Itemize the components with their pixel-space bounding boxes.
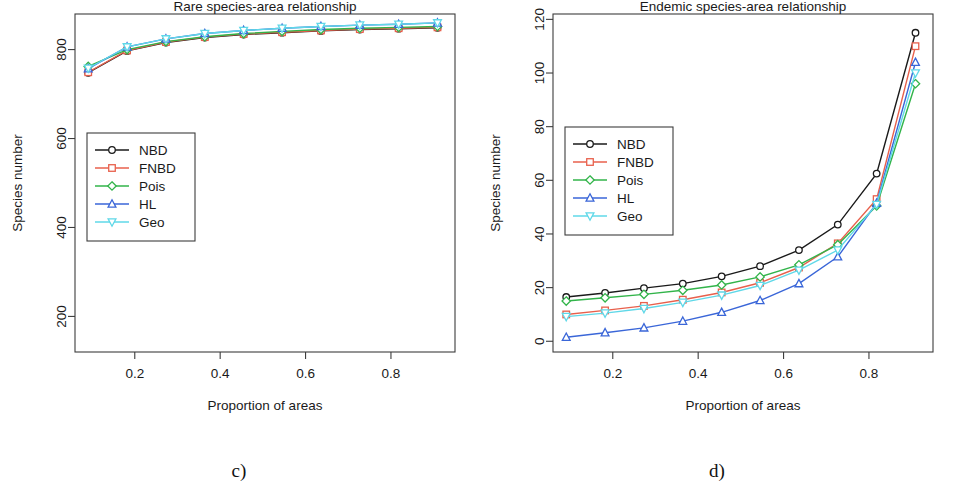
marker-circle xyxy=(109,147,116,154)
figure-container: Rare species-area relationship2004006008… xyxy=(0,0,956,492)
y-tick-label: 0 xyxy=(532,338,547,346)
series-line xyxy=(88,23,437,68)
marker-circle xyxy=(912,30,919,37)
marker-square xyxy=(912,43,919,50)
y-tick-label: 200 xyxy=(54,305,69,328)
y-tick-label: 100 xyxy=(532,62,547,85)
legend-label-fnbd: FNBD xyxy=(617,155,654,170)
y-axis-label: Species number xyxy=(488,134,503,232)
chart-title: Endemic species-area relationship xyxy=(640,0,846,14)
y-tick-label: 600 xyxy=(54,127,69,150)
y-tick-label: 20 xyxy=(532,280,547,295)
x-tick-label: 0.8 xyxy=(382,366,401,381)
x-tick-label: 0.2 xyxy=(125,366,144,381)
x-axis-label: Proportion of areas xyxy=(686,398,801,413)
panel-d-caption: d) xyxy=(478,460,956,482)
x-tick-label: 0.2 xyxy=(603,366,622,381)
marker-diamond xyxy=(717,281,725,289)
legend-label-geo: Geo xyxy=(139,215,165,230)
x-tick-label: 0.4 xyxy=(211,366,230,381)
y-tick-label: 40 xyxy=(532,226,547,241)
legend-label-pois: Pois xyxy=(617,173,644,188)
legend-label-hl: HL xyxy=(139,197,157,212)
legend-label-nbd: NBD xyxy=(617,137,646,152)
x-tick-label: 0.6 xyxy=(296,366,315,381)
marker-diamond xyxy=(679,286,687,294)
legend-label-pois: Pois xyxy=(139,179,166,194)
y-tick-label: 60 xyxy=(532,173,547,188)
panel-c-caption: c) xyxy=(0,460,478,482)
x-axis-label: Proportion of areas xyxy=(208,398,323,413)
marker-circle xyxy=(873,170,880,177)
x-tick-label: 0.8 xyxy=(860,366,879,381)
x-tick-label: 0.6 xyxy=(774,366,793,381)
y-tick-label: 400 xyxy=(54,216,69,239)
marker-circle xyxy=(757,263,764,270)
y-tick-label: 120 xyxy=(532,8,547,31)
marker-circle xyxy=(587,141,594,148)
endemic-species-chart: Endemic species-area relationship0204060… xyxy=(478,0,956,440)
marker-circle xyxy=(835,221,842,228)
x-tick-label: 0.4 xyxy=(689,366,708,381)
marker-circle xyxy=(796,247,803,254)
marker-square xyxy=(109,165,116,172)
y-tick-label: 80 xyxy=(532,119,547,134)
series-line xyxy=(88,26,437,66)
marker-diamond xyxy=(640,290,648,298)
legend-label-nbd: NBD xyxy=(139,143,168,158)
marker-circle xyxy=(718,273,725,280)
panel-d: Endemic species-area relationship0204060… xyxy=(478,0,956,492)
rare-species-chart: Rare species-area relationship2004006008… xyxy=(0,0,478,440)
marker-square xyxy=(587,159,594,166)
chart-legend: NBDFNBDPoisHLGeo xyxy=(87,133,195,241)
legend-label-fnbd: FNBD xyxy=(139,161,176,176)
chart-title: Rare species-area relationship xyxy=(173,0,356,14)
series-line xyxy=(88,28,437,73)
y-axis-label: Species number xyxy=(10,134,25,232)
legend-label-geo: Geo xyxy=(617,209,643,224)
panel-c: Rare species-area relationship2004006008… xyxy=(0,0,478,492)
y-tick-label: 800 xyxy=(54,38,69,61)
legend-label-hl: HL xyxy=(617,191,635,206)
marker-triangle xyxy=(795,279,803,286)
chart-legend: NBDFNBDPoisHLGeo xyxy=(565,127,673,235)
